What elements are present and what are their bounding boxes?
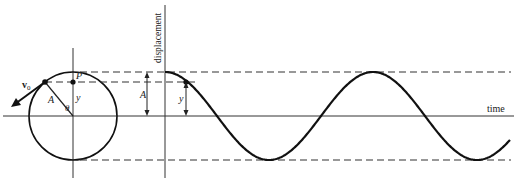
shm-diagram: v0 P A θ y A y displacement time: [0, 0, 519, 193]
amplitude-label: A: [139, 89, 147, 100]
amplitude-arrowhead-down: [145, 110, 150, 116]
displacement-y-label: y: [178, 93, 184, 104]
circle-point: [42, 79, 48, 85]
velocity-arrowhead: [11, 98, 21, 107]
y-arrowhead-down: [184, 110, 189, 116]
time-axis-label: time: [487, 103, 505, 114]
point-p: [70, 79, 75, 84]
angle-label: θ: [65, 103, 70, 113]
amplitude-arrowhead-up: [145, 72, 150, 78]
projection-label: y: [75, 92, 81, 103]
point-p-label: P: [75, 70, 82, 81]
displacement-axis-label: displacement: [153, 13, 163, 63]
velocity-label: v0: [22, 79, 31, 92]
radius-label: A: [47, 94, 55, 105]
